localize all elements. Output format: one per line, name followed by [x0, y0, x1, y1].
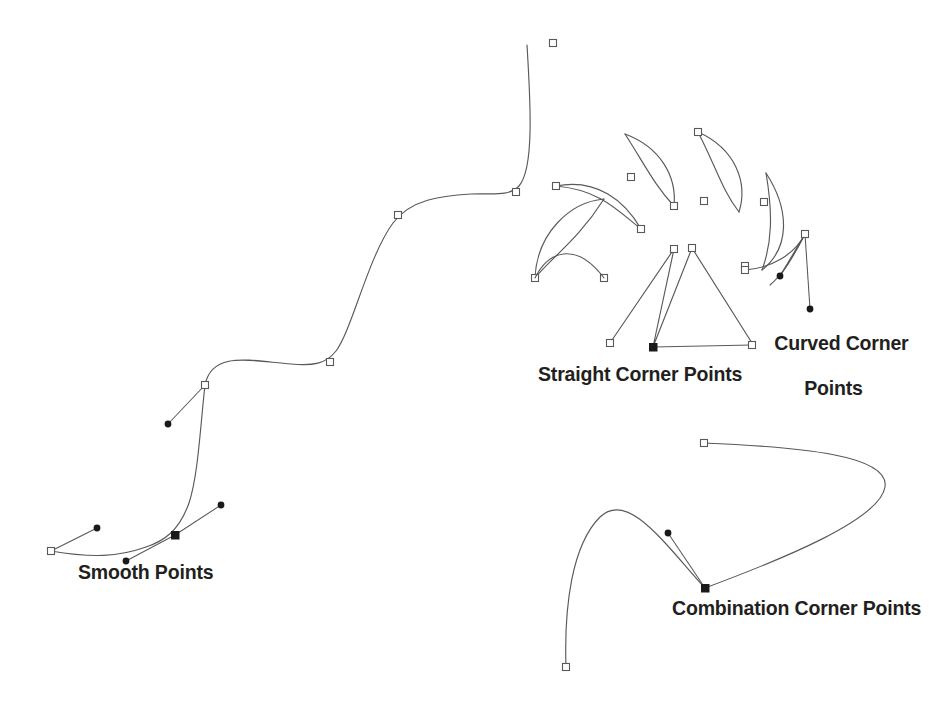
combination-curve-segment: [566, 510, 705, 667]
smooth-handle-line-mid-left: [126, 535, 175, 561]
curved-corner-petals-group: [532, 129, 814, 313]
direction-handle-dot: [94, 525, 101, 532]
curved-corner-arc-left: [745, 234, 805, 270]
curved-corner-handle-line-1: [780, 234, 805, 276]
anchor-point-open: [689, 245, 696, 252]
combination-corner-points-group: [563, 440, 886, 671]
direction-handle-dot: [665, 530, 672, 537]
anchor-point-filled: [650, 344, 658, 352]
direction-handle-dot: [777, 273, 784, 280]
anchor-point-open: [395, 212, 402, 219]
direction-handle-dot: [165, 421, 172, 428]
curved-corner-points-label-line1: Curved Corner: [774, 331, 908, 354]
smooth-handle-line-left-end: [51, 528, 97, 551]
direction-handle-dot: [218, 502, 225, 509]
anchor-point-diagram: Smooth Points Straight Corner Points Cur…: [0, 0, 935, 705]
straight-corner-points-label: Straight Corner Points: [538, 363, 742, 386]
anchor-point-open: [671, 246, 678, 253]
smooth-points-label: Smooth Points: [78, 561, 213, 584]
anchor-point-open: [671, 203, 678, 210]
anchor-point-open: [701, 440, 708, 447]
anchor-point-open: [327, 359, 334, 366]
petal-arc-inner: [762, 173, 771, 270]
smooth-points-group: [48, 40, 557, 565]
straight-corner-points-group: [607, 245, 756, 352]
combination-handle-line: [668, 533, 705, 588]
anchor-point-open: [742, 267, 749, 274]
anchor-point-open: [48, 548, 55, 555]
anchor-point-filled: [172, 532, 180, 540]
curved-corner-points-label: Curved Corner Points: [753, 309, 893, 422]
curved-corner-handle-line-2: [805, 234, 810, 309]
anchor-point-filled: [702, 585, 710, 593]
curved-corner-points-label-line2: Points: [804, 376, 863, 399]
anchor-point-open: [628, 174, 635, 181]
straight-corner-base-segment: [653, 345, 752, 347]
petal-arc-outer: [762, 173, 784, 270]
petal-arc-inner: [625, 134, 674, 206]
smooth-handle-line-upper: [168, 385, 205, 424]
smooth-points-curve: [51, 45, 530, 556]
combination-corner-points-label: Combination Corner Points: [672, 597, 921, 620]
anchor-point-open: [553, 183, 560, 190]
anchor-point-open: [550, 40, 557, 47]
anchor-point-open: [513, 189, 520, 196]
anchor-point-open: [701, 198, 708, 205]
smooth-handle-line-mid-right: [175, 505, 221, 535]
anchor-point-open: [802, 231, 809, 238]
combination-loop-segment: [704, 443, 885, 588]
anchor-point-open: [761, 199, 768, 206]
anchor-point-open: [695, 129, 702, 136]
straight-corner-polyline: [610, 248, 752, 347]
anchor-point-open: [638, 226, 645, 233]
anchor-point-open: [202, 382, 209, 389]
anchor-point-open: [563, 664, 570, 671]
anchor-point-open: [607, 340, 614, 347]
